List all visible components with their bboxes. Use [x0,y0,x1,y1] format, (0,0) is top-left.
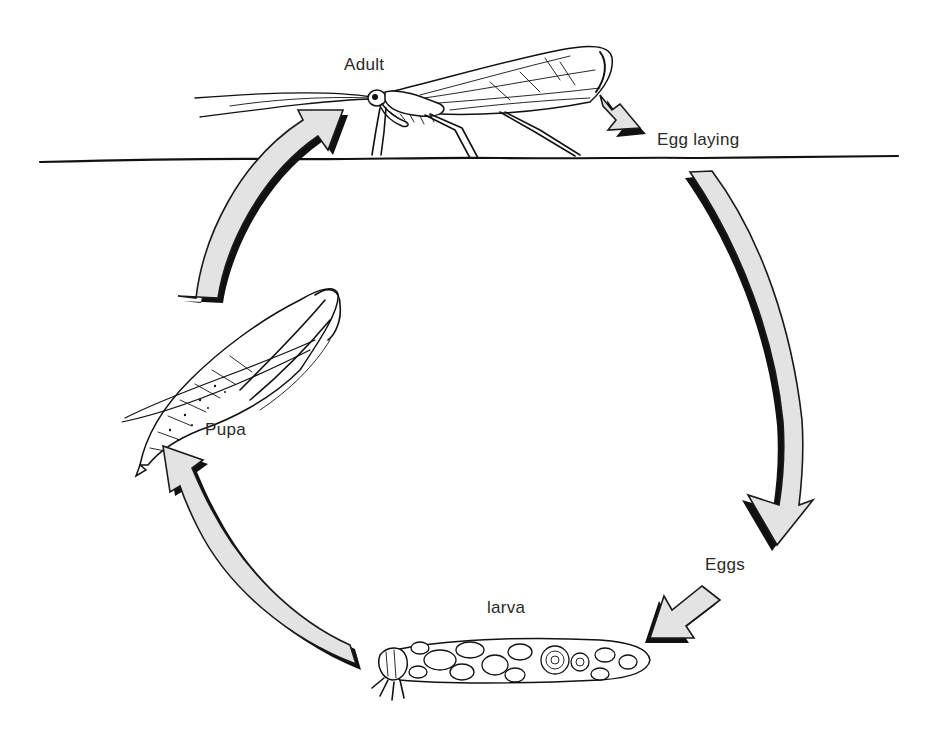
label-eggs: Eggs [705,555,745,575]
adult-caddisfly-illustration [195,46,612,158]
pupa-illustration [122,289,340,476]
arrow-pupa-to-adult [178,110,348,303]
arrow-adult-to-egg-laying [600,95,646,137]
label-pupa: Pupa [205,420,246,440]
arrow-egg-laying-to-eggs [685,171,813,551]
life-cycle-diagram [0,0,942,750]
label-egg-laying: Egg laying [657,130,739,150]
label-adult: Adult [344,55,384,75]
arrow-larva-to-pupa [163,446,361,670]
larva-illustration [372,638,650,700]
arrow-eggs-to-larva [645,586,720,643]
label-larva: larva [487,598,525,618]
